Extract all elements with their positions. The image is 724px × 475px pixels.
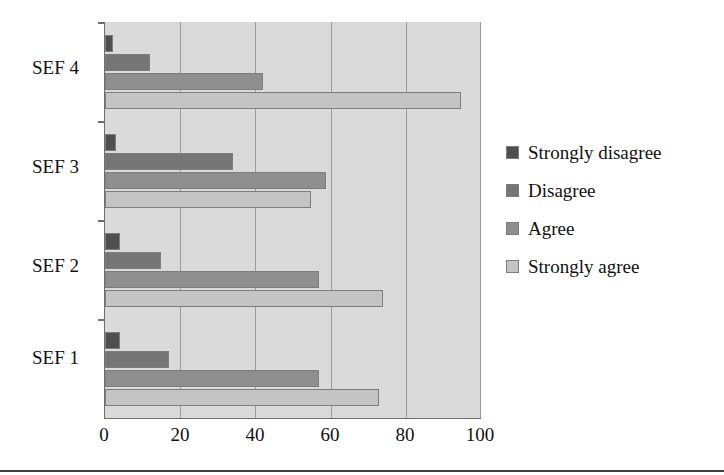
y-tick-sef4 — [98, 22, 105, 24]
category-label-sef4: SEF 4 — [32, 58, 79, 78]
y-tick-sef3 — [98, 121, 105, 123]
legend-swatch-strongly-disagree — [506, 146, 519, 159]
legend-swatch-disagree — [506, 184, 519, 197]
bar-sef2-strongly-disagree — [105, 233, 120, 250]
bar-sef3-agree — [105, 172, 326, 189]
page-bottom-rule — [0, 470, 724, 472]
bar-sef4-strongly-agree — [105, 92, 461, 109]
legend-label-agree: Agree — [528, 218, 574, 239]
legend-swatch-agree — [506, 222, 519, 235]
legend-label-strongly-disagree: Strongly disagree — [528, 142, 662, 163]
bar-sef4-agree — [105, 73, 263, 90]
x-tick-label-40: 40 — [225, 424, 285, 446]
bar-sef3-disagree — [105, 153, 233, 170]
bar-sef3-strongly-agree — [105, 191, 311, 208]
bar-sef2-disagree — [105, 252, 161, 269]
x-tick-label-80: 80 — [375, 424, 435, 446]
y-tick-sef1 — [98, 319, 105, 321]
y-tick-sef2 — [98, 220, 105, 222]
category-label-sef3: SEF 3 — [32, 157, 79, 177]
plot-area — [104, 22, 481, 419]
x-tick-label-0: 0 — [74, 424, 134, 446]
legend-label-strongly-agree: Strongly agree — [528, 256, 639, 277]
bar-sef1-strongly-agree — [105, 389, 379, 406]
gridline-80 — [406, 22, 407, 418]
bar-sef3-strongly-disagree — [105, 134, 116, 151]
legend-item-agree: Agree — [506, 209, 716, 247]
gridline-100 — [480, 22, 481, 418]
bar-sef1-disagree — [105, 351, 169, 368]
x-tick-label-100: 100 — [450, 424, 510, 446]
bar-sef2-agree — [105, 271, 319, 288]
chart-legend: Strongly disagree Disagree Agree Strongl… — [506, 133, 716, 285]
legend-item-strongly-agree: Strongly agree — [506, 247, 716, 285]
legend-item-strongly-disagree: Strongly disagree — [506, 133, 716, 171]
bar-sef2-strongly-agree — [105, 290, 383, 307]
legend-swatch-strongly-agree — [506, 260, 519, 273]
bar-sef1-strongly-disagree — [105, 332, 120, 349]
x-tick-label-20: 20 — [150, 424, 210, 446]
category-label-sef1: SEF 1 — [32, 348, 79, 368]
gridline-60 — [331, 22, 332, 418]
bar-sef4-disagree — [105, 54, 150, 71]
bar-chart-figure: SEF 4 SEF 3 SEF 2 SEF 1 0 20 40 60 80 10… — [0, 0, 724, 475]
x-tick-label-60: 60 — [300, 424, 360, 446]
bar-sef1-agree — [105, 370, 319, 387]
legend-item-disagree: Disagree — [506, 171, 716, 209]
category-label-sef2: SEF 2 — [32, 256, 79, 276]
bar-sef4-strongly-disagree — [105, 35, 113, 52]
legend-label-disagree: Disagree — [528, 180, 596, 201]
